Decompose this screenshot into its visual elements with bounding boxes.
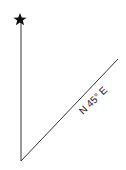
bearing-line [21,59,118,161]
bearing-label: N 45° E [77,84,110,116]
star-icon [14,13,27,25]
bearing-diagram: N 45° E [0,0,126,170]
